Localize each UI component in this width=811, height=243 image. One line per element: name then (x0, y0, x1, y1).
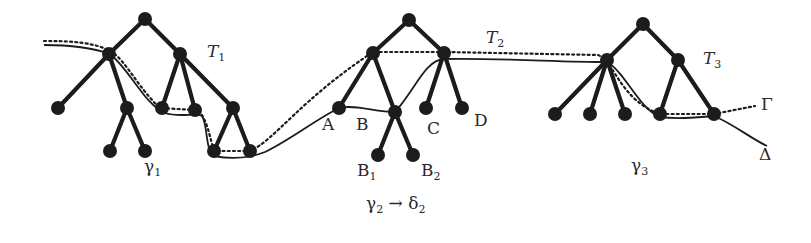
tree-diagram: T1 T2 T3 A B C D B1 B2 γ1 γ2 → δ2 γ3 Γ Δ (0, 0, 811, 243)
region-label-gamma3: γ3 (631, 157, 648, 177)
tree-label-t1: T1 (207, 43, 225, 63)
tree-label-t2: T2 (486, 29, 504, 49)
curve-gamma-dotted (44, 41, 755, 151)
arrow-icon: → (383, 193, 408, 213)
node-label-c: C (427, 120, 440, 137)
curve-label-delta: Δ (759, 146, 771, 163)
tree-t1-edges (58, 19, 250, 151)
node-label-d: D (474, 112, 488, 129)
region-label-gamma2-delta2: γ2 → δ2 (366, 195, 425, 215)
tree-t2-edges (339, 20, 462, 155)
node-label-a: A (322, 116, 334, 133)
curve-label-gamma: Γ (761, 96, 773, 113)
tree-label-t3: T3 (703, 50, 721, 70)
tree-t3-edges (555, 24, 714, 114)
node-label-b: B (356, 116, 369, 133)
node-label-b2: B2 (421, 162, 441, 182)
region-label-gamma1: γ1 (144, 158, 161, 178)
node-label-b1: B1 (357, 162, 377, 182)
